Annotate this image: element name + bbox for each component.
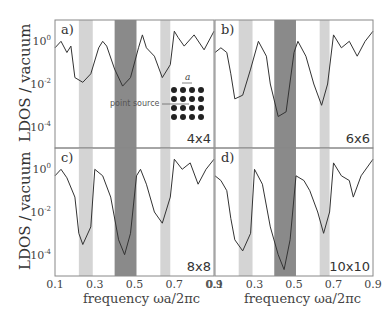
- y-tick-label: 100: [33, 162, 51, 176]
- lattice-rod: [171, 87, 177, 93]
- lattice-rod: [189, 114, 195, 120]
- panel-b: b)6x6: [215, 20, 373, 148]
- panel-d: d)10x100.10.30.50.70.9: [206, 148, 382, 291]
- size-label: 10x10: [329, 259, 370, 274]
- lattice-constant-label: a: [185, 72, 190, 82]
- lattice-rod: [198, 105, 204, 111]
- x-tick-label: 0.3: [246, 278, 264, 291]
- size-label: 4x4: [187, 131, 211, 146]
- x-tick-label: 0.5: [285, 278, 303, 291]
- lattice-rod: [180, 96, 186, 102]
- light-band: [160, 20, 170, 148]
- lattice-rod: [180, 114, 186, 120]
- panel-label: b): [221, 22, 234, 37]
- panel-label: d): [221, 150, 234, 165]
- size-label: 8x8: [187, 259, 211, 274]
- lattice-rod: [198, 114, 204, 120]
- panel-label: a): [61, 22, 74, 37]
- lattice-rod: [189, 87, 195, 93]
- dark-band: [274, 20, 296, 148]
- x-tick-label: 0.5: [126, 278, 144, 291]
- lattice-rod: [189, 96, 195, 102]
- lattice-rod: [171, 114, 177, 120]
- x-tick-label: 0.7: [166, 278, 184, 291]
- x-tick-label: 0.7: [325, 278, 343, 291]
- light-band: [239, 148, 253, 276]
- lattice-rod: [189, 105, 195, 111]
- y-axis-label-bottom: LDOS / vacuum: [16, 151, 34, 270]
- lattice-rod: [180, 105, 186, 111]
- x-tick-label: 0.3: [86, 278, 104, 291]
- lattice-rod: [171, 96, 177, 102]
- lattice-rod: [180, 87, 186, 93]
- lattice-rod: [171, 105, 177, 111]
- panel-c: c)8x810010-210-40.10.30.50.70.9: [30, 148, 223, 291]
- lattice-rod: [198, 87, 204, 93]
- x-tick-label: 0.9: [364, 278, 382, 291]
- dark-band: [115, 20, 137, 148]
- panel-label: c): [61, 150, 73, 165]
- light-band: [320, 148, 330, 276]
- lattice-rod: [198, 96, 204, 102]
- x-tick-label: 0.1: [206, 278, 224, 291]
- y-axis-label-top: LDOS / vacuum: [16, 23, 34, 142]
- panel-a: a)4x410010-210-4: [30, 20, 214, 148]
- x-axis-label-right: frequency ωa/2πc: [244, 291, 361, 306]
- x-axis-label-left: frequency ωa/2πc: [83, 291, 200, 306]
- size-label: 6x6: [346, 131, 370, 146]
- x-tick-label: 0.1: [46, 278, 64, 291]
- light-band: [79, 20, 93, 148]
- ldos-figure: a)4x410010-210-4b)6x6c)8x810010-210-40.1…: [0, 0, 389, 318]
- light-band: [79, 148, 93, 276]
- point-source-label: point source: [110, 99, 160, 108]
- y-tick-label: 100: [33, 34, 51, 48]
